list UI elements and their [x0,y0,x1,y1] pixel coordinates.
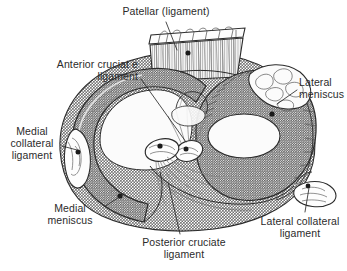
label-anterior-cruciate-ligament: Anterior cruciat e ligament [14,58,138,82]
label-lateral-meniscus: Lateral meniscus [299,76,347,100]
lateral-collateral-stump [294,172,336,207]
label-lateral-collateral-ligament: Lateral collateral ligament [253,215,347,239]
label-posterior-cruciate-ligament: Posterior cruciate ligament [131,236,237,260]
marker-dot-lcl [306,184,311,189]
label-medial-collateral-ligament: Medial collateral ligament [4,125,60,162]
marker-dot-mcl [76,150,81,155]
marker-dot-patellar [186,51,191,56]
marker-dot-lateral-meniscus [269,111,274,116]
label-patellar-ligament: Patellar (ligament) [102,5,230,17]
marker-dot-pcl [157,143,162,148]
label-medial-meniscus: Medial meniscus [38,202,102,226]
marker-dot-acl [184,147,189,152]
anatomy-figure: Patellar (ligament) Anterior cruciat e l… [0,0,347,271]
